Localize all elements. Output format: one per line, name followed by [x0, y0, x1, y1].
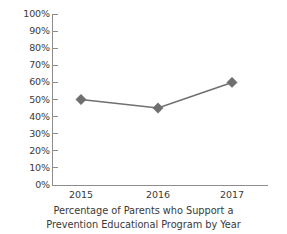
series-graphics — [0, 0, 287, 196]
x-axis-tick-label: 2015 — [51, 188, 111, 201]
plot-area: 100%90%80%70%60%50%40%30%20%10%0% 201520… — [0, 0, 287, 196]
series-marker-group — [76, 77, 237, 113]
x-axis-tick-label: 2017 — [202, 188, 262, 201]
x-axis-tick-label: 2016 — [128, 188, 188, 201]
chart-caption: Percentage of Parents who Support aPreve… — [0, 204, 287, 231]
series-data-point — [76, 94, 86, 104]
caption-line: Prevention Educational Program by Year — [0, 218, 287, 232]
series-data-point — [153, 103, 163, 113]
caption-line: Percentage of Parents who Support a — [0, 204, 287, 218]
series-data-point — [227, 77, 237, 87]
chart-figure: 100%90%80%70%60%50%40%30%20%10%0% 201520… — [0, 0, 287, 234]
